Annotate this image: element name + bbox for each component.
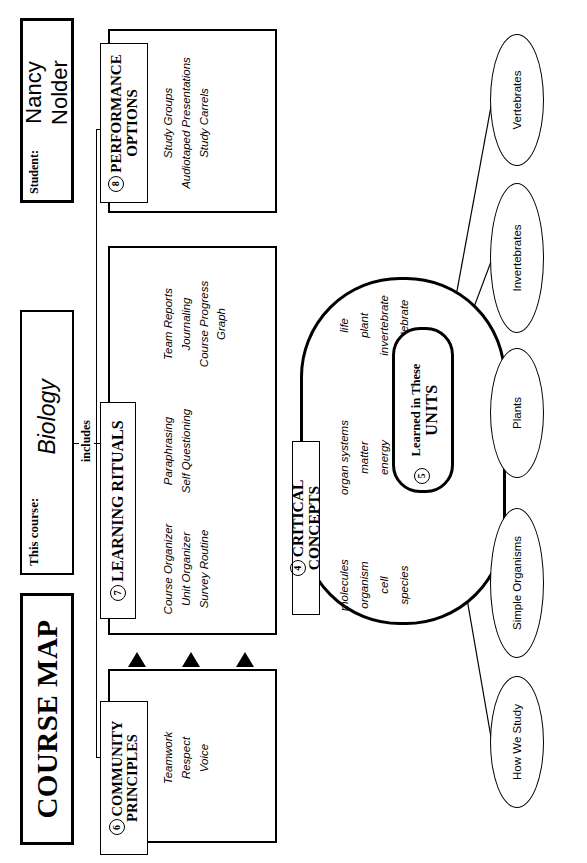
panel-performance-options-items: Study Groups Audiotaped Presentations St…: [160, 33, 213, 213]
page-title-text: COURSE MAP: [31, 619, 64, 818]
panel-learning-rituals-header: 7LEARNING RITUALS: [100, 402, 136, 619]
concept-item: life: [334, 295, 354, 356]
unit-ellipse-invertebrates[interactable]: Invertebrates: [490, 183, 544, 333]
panel-learning-rituals-column-3: Team Reports Journaling Course Progress …: [160, 259, 231, 389]
list-item: Course Progress: [196, 259, 214, 389]
list-item: Self Questioning: [178, 393, 196, 509]
list-item: Study Groups: [160, 33, 178, 213]
panel-title-line1: PERFORMANCE: [108, 54, 124, 172]
units-node-number-badge: 5: [414, 468, 430, 484]
list-item: Paraphrasing: [160, 393, 178, 509]
student-field-label: Student:: [27, 150, 42, 194]
unit-ellipse-how-we-study[interactable]: How We Study: [490, 676, 544, 808]
concept-item: organism: [354, 559, 374, 611]
list-item: Respect: [178, 673, 196, 843]
critical-concepts-header: 4CRITICAL CONCEPTS: [292, 441, 320, 615]
list-item: Voice: [196, 673, 214, 843]
list-item: Journaling: [178, 259, 196, 389]
list-item: Teamwork: [160, 673, 178, 843]
student-field-value: Nancy Nolder: [21, 35, 73, 150]
unit-ellipse-label: Plants: [511, 397, 523, 429]
section-number-badge: 4: [290, 560, 306, 576]
arrow-icon: [182, 652, 200, 667]
concept-item: molecules: [334, 559, 354, 611]
panel-title-line2: OPTIONS: [124, 89, 140, 157]
course-field-label: This course:: [26, 498, 42, 566]
panel-number-badge: 6: [109, 819, 125, 835]
panel-performance-options-header: 8PERFORMANCE OPTIONS: [100, 43, 148, 203]
list-item: Graph: [213, 259, 231, 389]
critical-concepts-title: CRITICAL CONCEPTS: [289, 480, 322, 570]
concept-item: cell: [374, 559, 394, 611]
concept-item: species: [394, 559, 414, 611]
unit-ellipse-vertebrates[interactable]: Vertebrates: [490, 34, 544, 166]
unit-ellipse-label: Simple Organisms: [511, 536, 523, 630]
concept-item: invertebrate: [374, 295, 394, 356]
unit-ellipse-label: Invertebrates: [511, 224, 523, 291]
course-field: This course: Biology: [20, 310, 74, 575]
list-item: Survey Routine: [196, 513, 214, 625]
panel-number-badge: 8: [108, 176, 124, 192]
panel-learning-rituals-column-1: Course Organizer Unit Organizer Survey R…: [160, 513, 213, 625]
concept-item: plant: [354, 295, 374, 356]
list-item: Course Organizer: [160, 513, 178, 625]
arrow-icon: [236, 652, 254, 667]
unit-ellipse-plants[interactable]: Plants: [490, 348, 544, 478]
page-title: COURSE MAP: [20, 593, 74, 845]
concept-item: organ systems: [334, 420, 354, 495]
list-item: Team Reports: [160, 259, 178, 389]
unit-ellipse-label: Vertebrates: [511, 71, 523, 130]
units-node-line1: Learned in These: [409, 364, 423, 457]
panel-number-badge: 7: [110, 585, 126, 601]
list-item: Audiotaped Presentations: [178, 33, 196, 213]
panel-title-line2: PRINCIPLES: [124, 734, 140, 822]
student-field: Student: Nancy Nolder: [20, 18, 74, 203]
list-item: Study Carrels: [196, 33, 214, 213]
arrow-icon: [128, 652, 146, 667]
panel-learning-rituals-column-2: Paraphrasing Self Questioning: [160, 393, 196, 509]
course-map-canvas: COURSE MAP This course: Biology Student:…: [0, 0, 587, 863]
critical-concepts-column-1: molecules organism cell species: [334, 559, 415, 611]
units-node-line2: UNITS: [423, 384, 440, 435]
unit-ellipse-simple-organisms[interactable]: Simple Organisms: [490, 508, 544, 658]
includes-label: includes: [79, 414, 94, 468]
course-field-value: Biology: [34, 336, 61, 498]
concept-item: matter: [354, 420, 374, 495]
panel-title-line1: LEARNING RITUALS: [109, 420, 126, 581]
includes-bus: [96, 130, 97, 758]
list-item: Unit Organizer: [178, 513, 196, 625]
panel-title-line1: COMMUNITY: [109, 721, 125, 817]
unit-ellipse-label: How We Study: [511, 704, 523, 780]
panel-community-principles-items: Teamwork Respect Voice: [160, 673, 213, 843]
units-node: 5 Learned in These UNITS: [392, 327, 454, 493]
panel-community-principles-header: 6COMMUNITY PRINCIPLES: [100, 701, 148, 855]
